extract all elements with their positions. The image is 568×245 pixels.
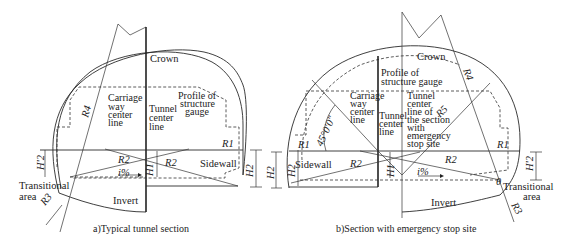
svg-text:area: area — [523, 191, 541, 202]
svg-text:H'2: H'2 — [35, 154, 46, 171]
slope-label-b: i% — [417, 166, 429, 177]
svg-text:R2: R2 — [349, 158, 362, 169]
svg-text:H2: H2 — [265, 165, 276, 180]
svg-text:line: line — [108, 117, 124, 128]
caption-b: b)Section with emergency stop site — [336, 223, 477, 235]
svg-text:line: line — [379, 126, 395, 137]
crown-label-b: Crown — [417, 51, 446, 62]
transitional-label-a: Transitional — [19, 180, 69, 191]
svg-text:R3: R3 — [37, 191, 54, 208]
figure-b-emergency-stop-section: Crown Profile of structure gauge Carriag… — [286, 12, 553, 235]
svg-text:line: line — [149, 121, 165, 132]
svg-text:R2: R2 — [117, 154, 130, 165]
svg-text:R4: R4 — [461, 66, 476, 82]
crown-label-a: Crown — [150, 53, 179, 64]
svg-text:R4: R4 — [79, 104, 93, 120]
svg-text:R2: R2 — [444, 154, 457, 165]
sidewall-label-b: Sidewall — [295, 159, 332, 170]
svg-text:H1: H1 — [144, 163, 155, 177]
caption-a: a)Typical tunnel section — [93, 223, 189, 235]
svg-text:line: line — [350, 114, 366, 125]
svg-text:H2: H2 — [244, 163, 255, 178]
svg-text:R2: R2 — [164, 157, 177, 168]
invert-label-a: Invert — [113, 195, 138, 206]
slope-label-a: i% — [118, 167, 130, 178]
svg-text:structure gauge: structure gauge — [381, 76, 443, 87]
svg-text:H'2: H'2 — [524, 155, 535, 172]
svg-text:θ: θ — [496, 176, 501, 187]
r1-label-a: R1 — [221, 138, 234, 149]
svg-text:R1: R1 — [297, 139, 310, 150]
svg-text:H1: H1 — [385, 164, 396, 178]
figure-a-typical-section: Crown Carriage way center line Tunnel ce… — [19, 24, 282, 235]
tunnel-sections-diagram: Crown Carriage way center line Tunnel ce… — [0, 0, 568, 245]
svg-text:stop site: stop site — [407, 138, 441, 149]
svg-text:area: area — [19, 191, 37, 202]
angle-label: 45°0′0″ — [314, 114, 338, 148]
svg-text:H2: H2 — [286, 163, 297, 178]
sidewall-label-a: Sidewall — [200, 158, 237, 169]
svg-text:gauge: gauge — [185, 106, 209, 117]
svg-text:R1: R1 — [496, 139, 509, 150]
invert-label-b: Invert — [431, 197, 456, 208]
